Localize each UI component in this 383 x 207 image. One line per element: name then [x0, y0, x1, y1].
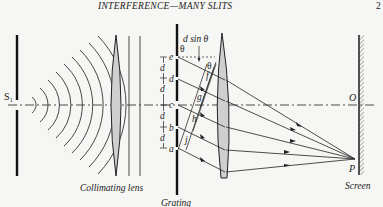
- slit-label-a: a: [169, 144, 174, 154]
- theta-label-right: θ: [207, 61, 212, 71]
- spacing-label-1: d: [160, 63, 165, 73]
- spacing-labels: d d d d: [160, 63, 165, 143]
- slit-label-d: d: [169, 74, 174, 84]
- spacing-label-3: d: [160, 111, 165, 121]
- perpendicular-wavefront-lines: [178, 62, 216, 150]
- focusing-lens: [217, 33, 229, 178]
- multi-slit-interference-diagram: S₁ Collimating lens Grating: [0, 0, 383, 207]
- spacing-label-2: d: [160, 84, 165, 94]
- screen: [359, 35, 364, 175]
- source-label: S₁: [4, 91, 13, 102]
- plane-wavefronts: [129, 36, 140, 176]
- ray-arrowheads-right: [284, 122, 302, 167]
- foot-label-h: h: [192, 114, 197, 124]
- focused-rays-to-screen: [226, 80, 355, 172]
- foot-label-j: j: [183, 135, 188, 145]
- center-point-label: O: [349, 92, 356, 103]
- theta-label-top: θ: [180, 44, 185, 54]
- spacing-label-4: d: [160, 133, 165, 143]
- slit-label-b: b: [169, 123, 174, 133]
- foot-labels: f g h j: [183, 71, 210, 145]
- focus-point-label: P: [348, 163, 355, 174]
- screen-label: Screen: [345, 181, 371, 191]
- slit-labels: e d c b a: [169, 52, 174, 154]
- foot-label-g: g: [197, 92, 202, 102]
- collimating-lens-label: Collimating lens: [80, 183, 143, 193]
- path-difference-label: d sin θ: [183, 34, 209, 44]
- slit-label-e: e: [169, 52, 173, 62]
- grating-label: Grating: [161, 198, 191, 207]
